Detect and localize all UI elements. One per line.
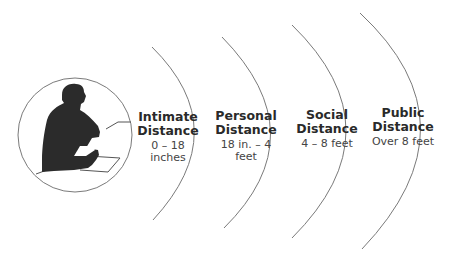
person-silhouette-icon xyxy=(42,84,100,172)
zone-public: Public Distance Over 8 feet xyxy=(366,106,440,148)
zone-intimate: Intimate Distance 0 – 18 inches xyxy=(132,110,204,165)
zone-title: Distance xyxy=(209,123,283,137)
zone-title: Distance xyxy=(366,120,440,134)
zone-range: 0 – 18 inches xyxy=(132,140,204,165)
zone-range: Over 8 feet xyxy=(366,136,440,149)
zone-title: Public xyxy=(366,106,440,120)
zone-title: Social xyxy=(292,108,362,122)
zone-range: 18 in. – 4 feet xyxy=(209,139,283,164)
zone-title: Distance xyxy=(292,122,362,136)
zone-personal: Personal Distance 18 in. – 4 feet xyxy=(209,109,283,164)
zone-title: Personal xyxy=(209,109,283,123)
zone-social: Social Distance 4 – 8 feet xyxy=(292,108,362,150)
zone-range: 4 – 8 feet xyxy=(292,138,362,151)
zone-title: Distance xyxy=(132,124,204,138)
zone-title: Intimate xyxy=(132,110,204,124)
person-circle xyxy=(18,78,132,192)
